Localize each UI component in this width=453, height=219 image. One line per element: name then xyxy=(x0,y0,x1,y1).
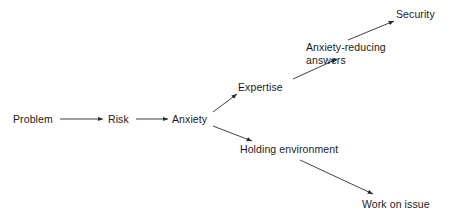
node-holding-environment: Holding environment xyxy=(240,143,338,156)
diagram-edges xyxy=(0,0,453,219)
node-anxiety: Anxiety xyxy=(172,113,207,126)
node-risk: Risk xyxy=(108,113,129,126)
node-problem: Problem xyxy=(13,113,53,126)
edge-holding-to-work xyxy=(300,160,373,194)
node-expertise: Expertise xyxy=(238,81,283,94)
edge-anxiety-to-holding xyxy=(213,126,252,141)
edge-answers-to-security xyxy=(348,21,394,40)
node-work-on-issue: Work on issue xyxy=(362,198,430,211)
node-anxiety-reducing-answers: Anxiety-reducing answers xyxy=(306,41,386,67)
diagram-canvas: Problem Risk Anxiety Expertise Anxiety-r… xyxy=(0,0,453,219)
edge-anxiety-to-expertise xyxy=(213,94,237,112)
node-security: Security xyxy=(396,8,435,21)
